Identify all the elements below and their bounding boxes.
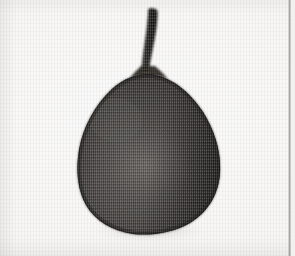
specimen-plate bbox=[0, 0, 295, 256]
fruit-specimen bbox=[0, 0, 295, 256]
fruit-illustration bbox=[0, 0, 295, 256]
page-edge-margin bbox=[291, 0, 295, 256]
fruit-body bbox=[70, 65, 230, 245]
